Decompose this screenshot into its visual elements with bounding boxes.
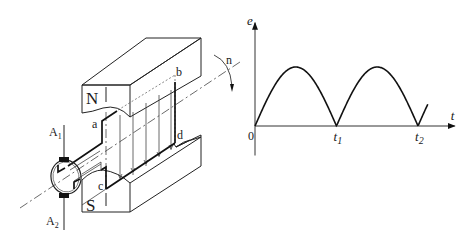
coil-back-edge bbox=[118, 75, 175, 110]
x-axis-label: t bbox=[451, 108, 455, 123]
brush-a1-label: A1 bbox=[49, 125, 62, 141]
magnetic-field-lines bbox=[118, 90, 173, 180]
corner-a-label: a bbox=[92, 117, 98, 131]
x-tick-labels: t1t2 bbox=[334, 129, 424, 146]
brush-a2-block bbox=[59, 193, 69, 198]
x-tick-label-2: t2 bbox=[415, 129, 424, 146]
north-pole-magnet bbox=[82, 38, 201, 117]
coil-side-cd bbox=[106, 143, 175, 189]
corner-d-label: d bbox=[177, 128, 183, 142]
south-pole-label: S bbox=[86, 196, 95, 215]
north-pole-label: N bbox=[86, 89, 98, 108]
brush-a1-block bbox=[59, 157, 69, 162]
south-pole-magnet bbox=[82, 135, 201, 212]
brush-a2-label: A2 bbox=[46, 214, 59, 230]
x-tick-label-1: t1 bbox=[334, 129, 343, 146]
commutator-segment-1 bbox=[58, 165, 65, 172]
corner-c-label: c bbox=[98, 179, 103, 193]
generator-diagram: N S a b c d n A1 A2 bbox=[20, 38, 240, 230]
brush-a1 bbox=[59, 125, 69, 162]
brush-a2 bbox=[59, 193, 69, 230]
figure-canvas: N S a b c d n A1 A2 e t 0 t1t2 bbox=[0, 0, 467, 241]
south-pole-side-face bbox=[130, 135, 201, 212]
rotation-direction-arrowhead bbox=[230, 84, 234, 92]
y-axis-label: e bbox=[247, 13, 253, 28]
speed-label: n bbox=[226, 53, 232, 67]
corner-b-label: b bbox=[176, 65, 182, 79]
north-pole-side-face bbox=[130, 38, 201, 117]
origin-label: 0 bbox=[248, 129, 254, 143]
emf-chart: e t 0 t1t2 bbox=[247, 13, 455, 156]
emf-curve bbox=[255, 67, 428, 126]
coil-lead-c bbox=[82, 162, 101, 174]
